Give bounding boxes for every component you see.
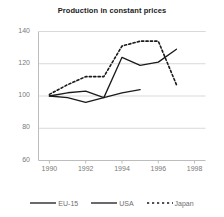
legend-swatch-solid-line-icon: [91, 200, 117, 206]
series-line-japan: [49, 41, 176, 94]
y-tick-label-140: 140: [4, 27, 30, 34]
legend-label: EU-15: [58, 200, 78, 207]
chart-legend: EU-15USAJapan: [0, 196, 224, 210]
production-line-chart: Production in constant prices 6080100120…: [0, 0, 224, 217]
y-tick-label-120: 120: [4, 59, 30, 66]
y-tick-label-100: 100: [4, 91, 30, 98]
legend-swatch-dashed-line-icon: [147, 200, 173, 206]
x-tick-label-1992: 1992: [69, 165, 103, 172]
plot-svg: [0, 0, 224, 190]
plot-area: 6080100120140 19901992199419961998: [0, 0, 224, 190]
legend-item-eu-15[interactable]: EU-15: [30, 200, 78, 207]
legend-item-usa[interactable]: USA: [91, 200, 133, 207]
x-tick-label-1994: 1994: [105, 165, 139, 172]
legend-item-japan[interactable]: Japan: [147, 200, 194, 207]
series-line-usa: [49, 49, 176, 97]
x-tick-label-1998: 1998: [178, 165, 212, 172]
legend-label: USA: [119, 200, 133, 207]
y-tick-label-60: 60: [4, 156, 30, 163]
x-tick-label-1996: 1996: [141, 165, 175, 172]
series-lines: [49, 41, 176, 102]
legend-label: Japan: [175, 200, 194, 207]
x-tick-label-1990: 1990: [32, 165, 66, 172]
legend-swatch-solid-line-icon: [30, 200, 56, 206]
gridlines: [39, 32, 206, 161]
y-tick-label-80: 80: [4, 123, 30, 130]
